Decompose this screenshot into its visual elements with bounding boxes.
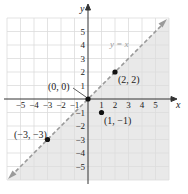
x-axis-label: x: [175, 99, 181, 110]
svg-text:1: 1: [81, 81, 86, 91]
svg-text:5: 5: [81, 27, 86, 37]
svg-text:3: 3: [126, 100, 131, 110]
label-neg3-neg3: (−3, −3): [14, 129, 47, 141]
svg-text:−2: −2: [56, 100, 66, 110]
svg-text:5: 5: [153, 100, 158, 110]
svg-text:−1: −1: [75, 108, 85, 118]
svg-text:2: 2: [81, 67, 86, 77]
coordinate-plane: x y −5 −4 −3 −2 −1 1 2 3 4 5 5 4 3 2 1 −…: [0, 0, 188, 194]
label-1-neg1: (1, −1): [104, 115, 131, 127]
svg-text:−3: −3: [75, 135, 85, 145]
svg-text:−5: −5: [16, 100, 26, 110]
line-equation-label: y = x: [109, 39, 129, 49]
label-2-2: (2, 2): [118, 74, 140, 86]
svg-text:4: 4: [140, 100, 145, 110]
point-origin: [85, 96, 90, 101]
svg-text:−3: −3: [43, 100, 53, 110]
svg-text:−4: −4: [75, 148, 85, 158]
point-2-2: [112, 69, 117, 74]
svg-text:−4: −4: [29, 100, 39, 110]
svg-text:4: 4: [81, 40, 86, 50]
svg-text:2: 2: [113, 100, 118, 110]
svg-text:−5: −5: [75, 162, 85, 172]
svg-text:1: 1: [99, 100, 104, 110]
y-axis-label: y: [79, 3, 85, 14]
svg-text:−2: −2: [75, 121, 85, 131]
label-origin: (0, 0): [48, 81, 70, 93]
svg-text:3: 3: [81, 54, 86, 64]
